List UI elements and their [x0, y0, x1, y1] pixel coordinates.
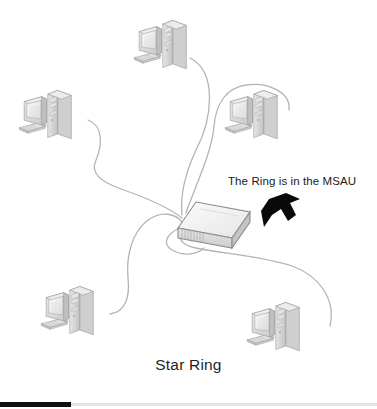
workstation-ws-right[interactable] — [225, 90, 277, 138]
diagram-caption: Star Ring — [0, 356, 377, 374]
msau-callout-label: The Ring is in the MSAU — [228, 175, 356, 187]
workstation-ws-bottom-left[interactable] — [41, 286, 93, 334]
msau-hub-device[interactable] — [178, 202, 250, 248]
cable-to-ws-left — [88, 120, 182, 218]
workstation-ws-top[interactable] — [134, 20, 186, 68]
cable-to-ws-bottom-left — [110, 214, 182, 314]
cable-group — [88, 58, 331, 326]
star-ring-topology-diagram — [0, 0, 377, 409]
cable-to-ws-top — [182, 58, 210, 215]
diagram-canvas: The Ring is in the MSAU Star Ring — [0, 0, 377, 409]
arrow-pointing-to-msau — [261, 193, 300, 227]
footer-rule-light-segment — [71, 403, 377, 406]
footer-rule — [0, 400, 377, 409]
footer-rule-dark-segment — [0, 402, 71, 407]
workstation-ws-left[interactable] — [19, 90, 71, 138]
workstation-ws-bottom-right[interactable] — [247, 302, 299, 350]
